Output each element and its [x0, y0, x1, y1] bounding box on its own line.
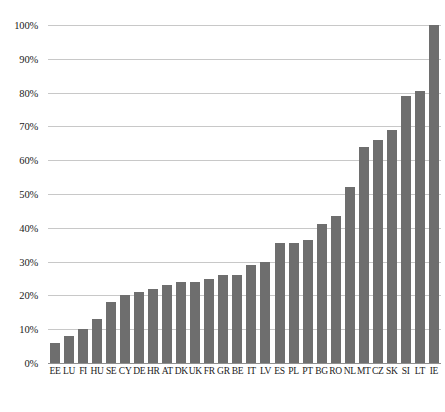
bar-slot	[216, 25, 230, 363]
x-tick-slot: BE	[230, 366, 244, 388]
bar-slot	[202, 25, 216, 363]
bar-UK[interactable]	[190, 282, 200, 363]
bar-IE[interactable]	[429, 25, 439, 363]
x-tick-slot: PL	[287, 366, 301, 388]
x-tick-label-PL: PL	[288, 366, 299, 376]
x-tick-slot: AT	[160, 366, 174, 388]
x-tick-label-UK: UK	[189, 366, 202, 376]
x-tick-slot: PT	[301, 366, 315, 388]
x-tick-slot: LU	[62, 366, 76, 388]
x-tick-label-LU: LU	[63, 366, 75, 376]
x-tick-slot: ES	[273, 366, 287, 388]
y-tick-label: 90%	[19, 53, 38, 64]
bar-SE[interactable]	[106, 302, 116, 363]
bar-BG[interactable]	[317, 224, 327, 363]
y-tick-label: 80%	[19, 87, 38, 98]
bar-HU[interactable]	[92, 319, 102, 363]
bar-RO[interactable]	[331, 216, 341, 363]
bar-PL[interactable]	[289, 243, 299, 363]
bar-HR[interactable]	[148, 289, 158, 363]
y-tick-label: 10%	[19, 324, 38, 335]
bar-slot	[62, 25, 76, 363]
y-axis-tick-labels: 0%10%20%30%40%50%60%70%80%90%100%	[0, 25, 44, 363]
bar-ES[interactable]	[275, 243, 285, 363]
y-tick-label: 40%	[19, 222, 38, 233]
bar-slot	[258, 25, 272, 363]
bar-slot	[174, 25, 188, 363]
bar-slot	[230, 25, 244, 363]
bar-slot	[104, 25, 118, 363]
y-tick-label: 0%	[24, 358, 38, 369]
y-tick-label: 60%	[19, 155, 38, 166]
bar-FI[interactable]	[78, 329, 88, 363]
bar-slot	[48, 25, 62, 363]
bar-slot	[385, 25, 399, 363]
bar-DE[interactable]	[134, 292, 144, 363]
bar-LV[interactable]	[260, 262, 270, 363]
bar-slot	[315, 25, 329, 363]
x-tick-label-DK: DK	[175, 366, 188, 376]
x-tick-label-FR: FR	[204, 366, 215, 376]
x-tick-slot: DK	[174, 366, 188, 388]
x-tick-slot: CZ	[371, 366, 385, 388]
bar-slot	[244, 25, 258, 363]
x-tick-label-GR: GR	[217, 366, 230, 376]
bar-MT[interactable]	[359, 147, 369, 363]
bar-CY[interactable]	[120, 295, 130, 363]
x-tick-label-DE: DE	[133, 366, 145, 376]
bar-GR[interactable]	[218, 275, 228, 363]
gridline-0	[48, 363, 441, 364]
bar-BE[interactable]	[232, 275, 242, 363]
x-tick-slot: IE	[427, 366, 441, 388]
bar-slot	[76, 25, 90, 363]
bar-SI[interactable]	[401, 96, 411, 363]
x-tick-label-PT: PT	[302, 366, 313, 376]
x-tick-label-AT: AT	[162, 366, 173, 376]
bar-slot	[188, 25, 202, 363]
bar-slot	[427, 25, 441, 363]
bar-slot	[343, 25, 357, 363]
bar-slot	[273, 25, 287, 363]
bar-PT[interactable]	[303, 240, 313, 363]
y-tick-label: 20%	[19, 290, 38, 301]
bar-EE[interactable]	[50, 343, 60, 363]
x-tick-label-SE: SE	[106, 366, 117, 376]
x-tick-label-SI: SI	[402, 366, 410, 376]
bar-CZ[interactable]	[373, 140, 383, 363]
x-tick-label-HU: HU	[91, 366, 104, 376]
x-tick-slot: DE	[132, 366, 146, 388]
x-tick-slot: HR	[146, 366, 160, 388]
bar-chart: 0%10%20%30%40%50%60%70%80%90%100% EELUFI…	[0, 0, 445, 412]
bar-SK[interactable]	[387, 130, 397, 363]
x-tick-slot: LV	[258, 366, 272, 388]
bar-DK[interactable]	[176, 282, 186, 363]
bar-slot	[118, 25, 132, 363]
x-tick-slot: GR	[216, 366, 230, 388]
x-tick-label-RO: RO	[329, 366, 342, 376]
bar-slot	[301, 25, 315, 363]
x-tick-slot: UK	[188, 366, 202, 388]
bar-AT[interactable]	[162, 285, 172, 363]
bar-LT[interactable]	[415, 91, 425, 363]
x-tick-label-CY: CY	[119, 366, 132, 376]
x-tick-slot: MT	[357, 366, 371, 388]
bar-slot	[413, 25, 427, 363]
bar-FR[interactable]	[204, 279, 214, 364]
x-tick-label-BE: BE	[232, 366, 244, 376]
x-tick-label-LT: LT	[415, 366, 425, 376]
bar-slot	[90, 25, 104, 363]
bar-NL[interactable]	[345, 187, 355, 363]
y-tick-label: 100%	[14, 20, 38, 31]
x-tick-label-MT: MT	[357, 366, 371, 376]
x-tick-slot: IT	[244, 366, 258, 388]
x-tick-slot: EE	[48, 366, 62, 388]
x-tick-label-SK: SK	[386, 366, 398, 376]
bar-IT[interactable]	[246, 265, 256, 363]
bar-slot	[357, 25, 371, 363]
x-tick-slot: HU	[90, 366, 104, 388]
x-tick-slot: FR	[202, 366, 216, 388]
bar-LU[interactable]	[64, 336, 74, 363]
x-tick-slot: NL	[343, 366, 357, 388]
plot-area	[48, 25, 441, 363]
x-tick-slot: SI	[399, 366, 413, 388]
